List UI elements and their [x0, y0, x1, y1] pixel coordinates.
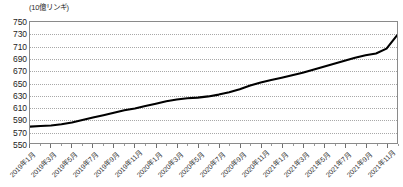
y-axis-tick-670: 670 — [1, 66, 27, 76]
y-axis-tick-650: 650 — [1, 79, 27, 89]
x-axis-tick-minor — [229, 144, 230, 146]
x-axis-tick-minor — [145, 144, 146, 146]
y-axis-tick-710: 710 — [1, 42, 27, 52]
y-axis-tick-610: 610 — [1, 103, 27, 113]
x-axis-tick-label: 2021年11月 — [365, 147, 397, 179]
y-axis-tick-750: 750 — [1, 17, 27, 27]
x-axis-tick-minor — [314, 144, 315, 146]
x-axis-tick-labels: 2019年1月2019年3月2019年5月2019年7月2019年9月2019年… — [0, 148, 403, 187]
y-axis-unit-label: (10億リンギ) — [29, 1, 69, 12]
y-axis-tick-690: 690 — [1, 54, 27, 64]
x-axis-tick-minor — [356, 144, 357, 146]
x-axis-tick-minor — [40, 144, 41, 146]
series-line-residual — [30, 35, 397, 126]
x-axis-tick-minor — [166, 144, 167, 146]
series-line-layer — [30, 22, 397, 143]
x-axis-tick-minor — [335, 144, 336, 146]
x-axis-tick-minor — [271, 144, 272, 146]
y-axis-tick-590: 590 — [1, 115, 27, 125]
line-chart: (10億リンギ) 7507307106906706506306105905705… — [0, 0, 403, 187]
x-axis-tick-minor — [398, 144, 399, 146]
x-axis-tick-minor — [187, 144, 188, 146]
plot-area — [29, 21, 398, 144]
y-axis-tick-630: 630 — [1, 91, 27, 101]
plot-inner — [30, 22, 397, 143]
y-axis-tick-labels: 750730710690670650630610590570550 — [0, 21, 27, 144]
x-axis-tick-minor — [208, 144, 209, 146]
x-axis-tick-minor — [124, 144, 125, 146]
x-axis-tick-minor — [293, 144, 294, 146]
x-axis-tick-minor — [82, 144, 83, 146]
x-axis-tick-minor — [377, 144, 378, 146]
x-axis-tick-minor — [61, 144, 62, 146]
y-axis-tick-570: 570 — [1, 128, 27, 138]
x-axis-tick-minor — [103, 144, 104, 146]
x-axis-tick-minor — [250, 144, 251, 146]
y-axis-tick-730: 730 — [1, 29, 27, 39]
